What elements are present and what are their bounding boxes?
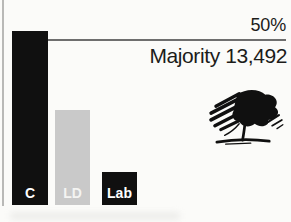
scan-smudge-artifact (10, 212, 180, 220)
bar-lab: Lab (102, 172, 137, 205)
bar-ld: LD (55, 110, 90, 205)
fifty-percent-threshold-line (48, 39, 286, 41)
left-crop-edge-line (2, 0, 4, 206)
election-result-chart: C LD Lab 50% Majority 13,492 (0, 0, 291, 222)
bar-c: C (12, 31, 48, 205)
threshold-label: 50% (251, 15, 286, 36)
bar-label-ld: LD (55, 185, 90, 201)
bar-label-c: C (12, 185, 48, 201)
majority-annotation: Majority 13,492 (149, 44, 287, 68)
bar-label-lab: Lab (102, 185, 137, 201)
conservative-tree-icon (204, 84, 286, 148)
